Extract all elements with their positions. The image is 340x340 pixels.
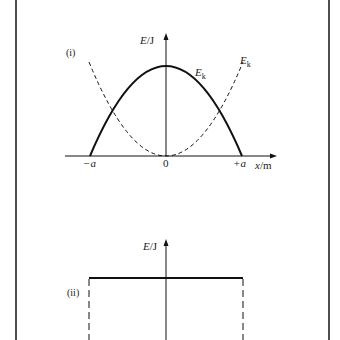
panel-i-tag: (i) (66, 47, 75, 59)
panel-ii-tag: (ii) (67, 287, 79, 299)
panel-i-x-axis-arrow-icon (270, 154, 277, 159)
panel-ii: E/J (ii) (67, 239, 243, 340)
panel-i-x-tick-pos-a: +a (233, 157, 246, 169)
panel-ii-y-axis-label: E/J (142, 240, 158, 252)
panel-i-y-axis-label: E/J (139, 34, 155, 46)
panel-i-x-axis-label: x/m (254, 159, 272, 171)
panel-i: (i) E/J Ek Ek −a 0 +a x/m (65, 33, 277, 171)
panel-i-y-axis-arrow-icon (164, 33, 169, 40)
panel-ii-y-axis-arrow-icon (164, 239, 169, 246)
panel-i-x-tick-zero: 0 (163, 157, 169, 169)
panel-i-x-tick-neg-a: −a (83, 157, 96, 169)
panel-i-dashed-curve-label: Ek (239, 54, 251, 69)
energy-diagram: (i) E/J Ek Ek −a 0 +a x/m E/J (ii) (0, 0, 340, 340)
